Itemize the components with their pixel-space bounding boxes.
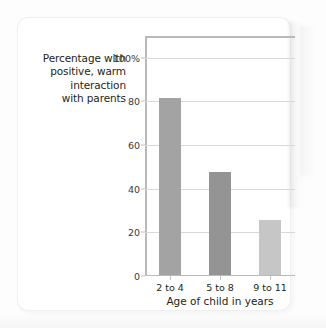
y-tick-mark-20 [141, 232, 145, 233]
x-tick-mark-2 [270, 276, 271, 280]
bar-chart-figure: Percentage with positive, warm interacti… [0, 0, 326, 328]
bar-5-to-8 [209, 172, 231, 275]
y-tick-label-40: 40 [128, 183, 140, 194]
x-tick-label-5-to-8: 5 to 8 [206, 282, 234, 293]
plot-frame-top-border [145, 36, 295, 38]
x-tick-mark-0 [170, 276, 171, 280]
y-tick-mark-80 [141, 101, 145, 102]
y-tick-mark-40 [141, 188, 145, 189]
x-tick-label-2-to-4: 2 to 4 [156, 282, 184, 293]
y-tick-label-0: 0 [134, 271, 140, 282]
x-tick-mark-1 [220, 276, 221, 280]
y-tick-label-20: 20 [128, 227, 140, 238]
y-tick-mark-60 [141, 145, 145, 146]
y-axis-caption: Percentage with positive, warm interacti… [24, 52, 126, 105]
y-tick-mark-0 [141, 276, 145, 277]
y-axis-caption-line-3: interaction [24, 79, 126, 92]
bar-2-to-4 [159, 98, 181, 275]
y-tick-label-60: 60 [128, 140, 140, 151]
y-tick-label-100: 100% [113, 52, 140, 63]
y-tick-mark-100 [141, 57, 145, 58]
y-axis-caption-line-2: positive, warm [24, 65, 126, 78]
bar-9-to-11 [259, 220, 281, 275]
y-axis-line [145, 36, 147, 276]
y-axis-caption-line-4: with parents [24, 92, 126, 105]
gridline-100 [145, 58, 295, 59]
plot-area: 020406080100% 2 to 45 to 89 to 11 [145, 36, 295, 276]
y-tick-label-80: 80 [128, 96, 140, 107]
x-axis-title: Age of child in years [145, 295, 295, 307]
x-tick-label-9-to-11: 9 to 11 [253, 282, 287, 293]
page-root: Percentage with positive, warm interacti… [0, 0, 326, 328]
y-axis-caption-line-1: Percentage with [24, 52, 126, 65]
